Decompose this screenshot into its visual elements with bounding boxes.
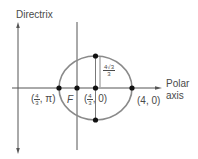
fraction-denominator: 3: [35, 100, 38, 106]
minor-half-label: 4√33: [103, 64, 115, 77]
fraction-numerator: 4√3: [103, 64, 115, 71]
directrix-arrow-up-icon: [16, 22, 20, 28]
polar-axis-label: Polar axis: [166, 78, 189, 102]
center-label: (43, 0): [84, 93, 107, 106]
directrix-arrow-down-icon: [16, 148, 20, 154]
polar-axis-arrow-icon: [155, 86, 162, 90]
fraction-denominator: 3: [88, 100, 91, 106]
left-vertex-label: (43, π): [31, 93, 55, 106]
right-vertex-label: (4, 0): [137, 95, 160, 106]
point-top: [93, 53, 98, 58]
point-bottom: [93, 117, 98, 122]
directrix-label: Directrix: [16, 9, 53, 20]
point-center: [93, 85, 98, 90]
center-rest: , 0): [93, 93, 107, 104]
polar-axis-label-line1: Polar: [166, 78, 189, 90]
focus-label: F: [67, 94, 73, 105]
polar-axis-label-line2: axis: [166, 90, 189, 102]
point-left-vertex: [56, 85, 61, 90]
fraction-denominator: 3: [107, 71, 110, 77]
minor-half-fraction: 4√33: [103, 64, 115, 77]
left-vertex-rest: , π): [40, 93, 56, 104]
point-focus: [74, 85, 79, 90]
point-right-vertex: [129, 85, 134, 90]
